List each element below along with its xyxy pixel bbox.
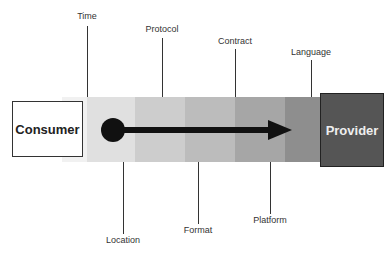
contract-leader-line — [235, 49, 236, 97]
protocol-label: Protocol — [145, 24, 178, 34]
location-leader-line — [123, 162, 124, 234]
language-leader-line — [311, 60, 312, 97]
platform-label: Platform — [253, 215, 287, 225]
format-label: Format — [184, 225, 213, 235]
protocol-leader-line — [162, 38, 163, 97]
format-leader-line — [198, 162, 199, 224]
contract-label: Contract — [218, 36, 252, 46]
location-label: Location — [106, 235, 140, 245]
language-label: Language — [291, 47, 331, 57]
time-label: Time — [77, 11, 97, 21]
arrow-icon — [0, 0, 391, 255]
platform-leader-line — [270, 162, 271, 214]
time-leader-line — [87, 26, 88, 97]
